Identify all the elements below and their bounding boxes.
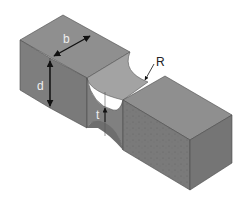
right-block: [123, 76, 232, 190]
r-leader-arrow: [145, 64, 154, 80]
label-r: R: [156, 55, 165, 69]
specimen-diagram: b d t R: [0, 0, 248, 209]
label-b: b: [63, 32, 70, 46]
dimension-r: [145, 64, 154, 80]
label-d: d: [37, 79, 44, 93]
